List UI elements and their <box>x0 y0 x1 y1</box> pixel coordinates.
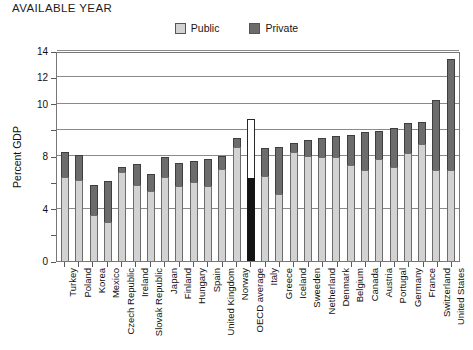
bar-column[interactable] <box>372 53 386 261</box>
bar-stack <box>104 181 112 261</box>
bar-segment-private <box>133 164 141 185</box>
bar-stack <box>447 59 455 261</box>
x-axis-tick <box>416 262 430 267</box>
bar-column[interactable] <box>329 53 343 261</box>
x-axis-tick-mark <box>164 262 165 267</box>
x-axis-label-cell: Portugal <box>387 268 401 348</box>
bar-column[interactable] <box>258 53 272 261</box>
x-axis-tick-mark <box>365 262 366 267</box>
x-axis-tick <box>86 262 100 267</box>
y-axis-tick-label: 10 <box>37 99 51 109</box>
bar-segment-public <box>161 177 169 261</box>
chart-legend: Public Private <box>0 22 473 34</box>
bar-segment-private <box>390 128 398 166</box>
y-axis-tick-label: 4 <box>42 204 51 214</box>
bar-column[interactable] <box>201 53 215 261</box>
legend-label-public: Public <box>191 22 220 34</box>
x-axis-tick-mark <box>92 262 93 267</box>
bar-column[interactable] <box>129 53 143 261</box>
bar-segment-private <box>261 148 269 176</box>
bar-stack <box>204 159 212 261</box>
bar-column[interactable] <box>58 53 72 261</box>
x-axis-tick <box>143 262 157 267</box>
x-axis-tick <box>114 262 128 267</box>
bar-segment-public <box>61 177 69 261</box>
bar-segment-private <box>61 152 69 177</box>
y-axis-tick-label: 12 <box>37 73 51 83</box>
bar-column[interactable] <box>344 53 358 261</box>
bar-stack <box>318 138 326 261</box>
y-axis-tick-label: 8 <box>42 152 51 162</box>
x-axis-tick-mark <box>222 262 223 267</box>
bar-column[interactable] <box>187 53 201 261</box>
x-axis-label-cell: Czech Republic <box>114 268 128 348</box>
bar-column[interactable] <box>415 53 429 261</box>
bar-column[interactable] <box>301 53 315 261</box>
bar-column[interactable] <box>158 53 172 261</box>
x-axis-label-cell: Slovak Republic <box>143 268 157 348</box>
x-axis-tick <box>244 262 258 267</box>
bar-segment-private <box>404 123 412 153</box>
x-axis-tick-mark <box>121 262 122 267</box>
bar-segment-public <box>304 156 312 261</box>
x-axis-tick <box>402 262 416 267</box>
bar-segment-public <box>375 159 383 261</box>
bar-column[interactable] <box>72 53 86 261</box>
x-axis-tick-mark <box>437 262 438 267</box>
x-axis-tick <box>186 262 200 267</box>
x-axis-tick <box>359 262 373 267</box>
bar-column[interactable] <box>101 53 115 261</box>
bar-column[interactable] <box>215 53 229 261</box>
x-axis-label-cell: Austria <box>373 268 387 348</box>
bar-column[interactable] <box>244 53 258 261</box>
bar-stack <box>75 155 83 261</box>
x-axis-label-cell: Ireland <box>129 268 143 348</box>
x-axis-tick <box>387 262 401 267</box>
x-axis-tick-mark <box>408 262 409 267</box>
bar-column[interactable] <box>358 53 372 261</box>
bar-column[interactable] <box>87 53 101 261</box>
bar-column[interactable] <box>272 53 286 261</box>
x-axis-tick-mark <box>293 262 294 267</box>
x-axis-tick-mark <box>78 262 79 267</box>
public-swatch-icon <box>175 23 186 34</box>
x-axis: TurkeyPolandKoreaMexicoCzech RepublicIre… <box>56 262 460 350</box>
x-axis-tick <box>330 262 344 267</box>
bar-segment-private <box>204 159 212 187</box>
bar-segment-private <box>304 140 312 156</box>
bar-stack <box>90 185 98 261</box>
bar-column[interactable] <box>287 53 301 261</box>
bar-stack <box>175 163 183 261</box>
bar-segment-public <box>332 157 340 261</box>
bar-stack <box>390 128 398 261</box>
x-axis-tick <box>301 262 315 267</box>
x-axis-tick <box>100 262 114 267</box>
y-axis: Percent GDP 048101214 <box>0 52 56 262</box>
x-axis-tick <box>315 262 329 267</box>
bar-column[interactable] <box>172 53 186 261</box>
bar-column[interactable] <box>115 53 129 261</box>
bar-column[interactable] <box>444 53 458 261</box>
bar-segment-private <box>347 135 355 165</box>
bar-segment-public <box>318 157 326 261</box>
x-axis-tick <box>71 262 85 267</box>
legend-item-public: Public <box>175 22 220 34</box>
bar-column[interactable] <box>401 53 415 261</box>
x-axis-label-cell: Hungary <box>186 268 200 348</box>
x-axis-label-cell: Finland <box>172 268 186 348</box>
y-axis-tick-label: 0 <box>42 257 51 267</box>
bar-stack <box>233 138 241 261</box>
bar-segment-private <box>432 100 440 171</box>
x-axis-tick-mark <box>451 262 452 267</box>
y-axis-title: Percent GDP <box>11 102 23 212</box>
bar-column[interactable] <box>386 53 400 261</box>
bar-segment-public <box>175 186 183 261</box>
bar-segment-public <box>204 186 212 261</box>
x-axis-tick-mark <box>64 262 65 267</box>
bar-column[interactable] <box>144 53 158 261</box>
bar-column[interactable] <box>429 53 443 261</box>
x-axis-label-cell: Belgium <box>344 268 358 348</box>
bar-column[interactable] <box>229 53 243 261</box>
bar-column[interactable] <box>315 53 329 261</box>
page-title: AVAILABLE YEAR <box>12 2 112 14</box>
